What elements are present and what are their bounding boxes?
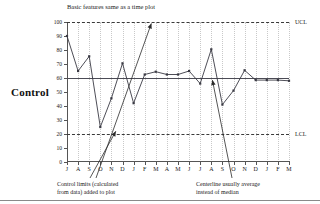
control-limits-note: Control limits (calculated from data) ad… <box>57 180 167 196</box>
arrow-to-ucl <box>96 23 152 178</box>
arrow-to-lcl <box>90 131 116 178</box>
arrow-to-centerline <box>211 80 232 178</box>
centerline-note-line-2: instead of median <box>196 188 314 196</box>
control-limits-note-line-1: Control limits (calculated <box>57 180 167 188</box>
centerline-note: Centerline usually average instead of me… <box>196 180 314 196</box>
annotation-arrows <box>0 0 320 204</box>
centerline-note-line-1: Centerline usually average <box>196 180 314 188</box>
footer-divider <box>0 200 320 201</box>
control-limits-note-line-2: from data) added to plot <box>57 188 167 196</box>
control-chart-figure: Control Basic features same as a time pl… <box>0 0 320 204</box>
